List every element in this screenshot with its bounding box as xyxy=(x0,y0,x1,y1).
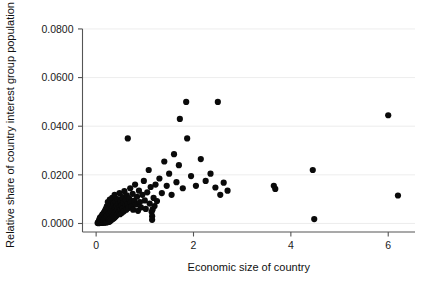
y-tick-label-0: 0.0000 xyxy=(41,217,73,229)
data-point xyxy=(224,188,230,194)
data-point xyxy=(159,190,165,196)
data-point xyxy=(132,181,138,187)
y-tick-label-4: 0.0800 xyxy=(41,23,73,35)
x-tick-label-0: 0 xyxy=(93,239,99,251)
data-point xyxy=(144,189,150,195)
y-tick-label-2: 0.0400 xyxy=(41,120,73,132)
data-point xyxy=(176,162,182,168)
chart-canvas: 0.00000.02000.04000.06000.0800 0246 Econ… xyxy=(0,0,428,286)
data-point xyxy=(171,151,177,157)
data-point xyxy=(272,186,278,192)
data-point xyxy=(177,116,183,122)
data-point xyxy=(166,171,172,177)
data-point xyxy=(164,183,170,189)
data-point xyxy=(395,192,401,198)
x-tick-label-2: 4 xyxy=(288,239,294,251)
x-axis-title: Economic size of country xyxy=(188,261,311,273)
data-point xyxy=(310,167,316,173)
data-point xyxy=(215,99,221,105)
data-point xyxy=(134,194,140,200)
data-point xyxy=(193,183,199,189)
data-point xyxy=(183,99,189,105)
data-point xyxy=(149,217,155,223)
y-axis-title: Relative share of country interest group… xyxy=(4,2,16,248)
data-point xyxy=(180,185,186,191)
data-point xyxy=(221,180,227,186)
data-point xyxy=(385,112,391,118)
data-point xyxy=(146,167,152,173)
data-point xyxy=(198,156,204,162)
data-point xyxy=(161,158,167,164)
data-point xyxy=(154,198,160,204)
data-points xyxy=(94,99,401,227)
data-point xyxy=(212,184,218,190)
y-axis-ticks: 0.00000.02000.04000.06000.0800 xyxy=(41,23,82,230)
data-point xyxy=(217,192,223,198)
data-point xyxy=(173,179,179,185)
scatter-plot-figure: 0.00000.02000.04000.06000.0800 0246 Econ… xyxy=(0,0,428,286)
data-point xyxy=(203,178,209,184)
x-axis-ticks: 0246 xyxy=(93,232,391,251)
data-point xyxy=(141,178,147,184)
data-point xyxy=(156,175,162,181)
data-point xyxy=(184,135,190,141)
data-point xyxy=(188,173,194,179)
data-point xyxy=(168,192,174,198)
y-tick-label-1: 0.0200 xyxy=(41,169,73,181)
y-tick-label-3: 0.0600 xyxy=(41,71,73,83)
data-point xyxy=(125,135,131,141)
data-point xyxy=(207,171,213,177)
data-point xyxy=(152,181,158,187)
x-tick-label-3: 6 xyxy=(385,239,391,251)
data-point xyxy=(311,216,317,222)
data-point xyxy=(143,206,149,212)
x-tick-label-1: 2 xyxy=(191,239,197,251)
